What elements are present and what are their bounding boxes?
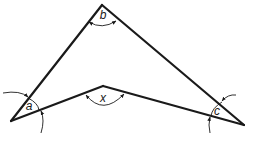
angle-c-label: c (214, 104, 220, 118)
angle-a: a (3, 92, 43, 133)
arrowhead-quadrilateral-diagram: b a x c (0, 0, 266, 145)
angle-a-arc-upper (3, 92, 28, 97)
angle-x-label: x (99, 91, 107, 105)
angle-c-arc-upper (222, 95, 236, 101)
angle-a-arc-lower (41, 111, 43, 133)
angle-b-label: b (100, 8, 107, 22)
shape-edges (11, 5, 244, 125)
edge-reflex-right (103, 86, 244, 125)
angle-x: x (86, 91, 124, 105)
angle-a-label: a (26, 99, 33, 113)
angle-c-arc-lower (209, 117, 210, 133)
edge-top-right (102, 5, 244, 125)
